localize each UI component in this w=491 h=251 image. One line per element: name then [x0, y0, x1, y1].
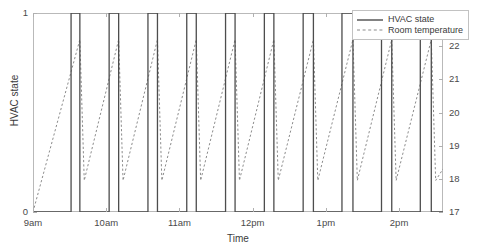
x-axis-title: Time [33, 233, 443, 244]
y-left-tick [33, 13, 37, 14]
y-left-tick-label: 0 [5, 207, 28, 217]
x-tick-label: 12pm [227, 218, 279, 228]
y-left-tick [33, 212, 37, 213]
hvac-state-line [33, 13, 443, 212]
chart-svg [33, 13, 443, 212]
y-left-tick-label: 1 [5, 8, 28, 18]
y-right-tick-label: 19 [449, 141, 473, 151]
y-right-tick-label: 21 [449, 74, 473, 84]
x-tick-top [179, 13, 180, 17]
legend-solid-line-icon [357, 16, 383, 24]
y-axis-left-title: HVAC state [9, 61, 20, 141]
x-tick-label: 10am [80, 218, 132, 228]
legend-label-hvac-state: HVAC state [388, 15, 434, 24]
x-tick-top [106, 13, 107, 17]
y-right-tick [439, 146, 443, 147]
plot-canvas [33, 13, 443, 212]
legend-label-room-temperature: Room temperature [388, 26, 463, 35]
y-right-tick-label: 20 [449, 108, 473, 118]
y-right-tick [439, 212, 443, 213]
x-tick-bottom [179, 208, 180, 212]
x-tick-bottom [253, 208, 254, 212]
y-right-tick [439, 113, 443, 114]
y-right-tick [439, 79, 443, 80]
x-tick-label: 1pm [300, 218, 352, 228]
chart-legend: HVAC state Room temperature [352, 10, 469, 40]
y-right-tick-label: 18 [449, 174, 473, 184]
legend-item-room-temperature: Room temperature [357, 25, 463, 35]
chart-figure: 9am10am11am12pm1pm2pm0117181920212223 HV… [0, 0, 491, 251]
x-tick-bottom [326, 208, 327, 212]
x-tick-label: 2pm [373, 218, 425, 228]
legend-dashed-line-icon [357, 26, 383, 34]
x-tick-bottom [399, 208, 400, 212]
y-right-tick [439, 46, 443, 47]
y-right-tick [439, 179, 443, 180]
x-tick-top [253, 13, 254, 17]
y-right-tick-label: 22 [449, 41, 473, 51]
x-tick-label: 9am [7, 218, 59, 228]
y-right-tick-label: 17 [449, 207, 473, 217]
legend-item-hvac-state: HVAC state [357, 15, 463, 25]
x-tick-top [326, 13, 327, 17]
x-tick-label: 11am [153, 218, 205, 228]
x-tick-bottom [106, 208, 107, 212]
